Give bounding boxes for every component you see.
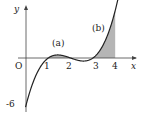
cubic-graph: y x O 1 2 3 4 -6 (a) (b) — [0, 0, 142, 120]
region-a-label: (a) — [52, 38, 64, 48]
region-b-label: (b) — [92, 23, 105, 33]
y-tick-neg6: -6 — [6, 99, 15, 109]
y-axis-label: y — [13, 4, 20, 14]
x-tick-1: 1 — [44, 61, 50, 71]
x-axis-arrow-icon — [132, 56, 137, 60]
x-tick-3: 3 — [93, 61, 99, 71]
shaded-region-b — [93, 11, 115, 58]
y-axis-arrow-icon — [24, 5, 28, 10]
x-tick-2: 2 — [66, 61, 72, 71]
x-axis-label: x — [131, 61, 136, 71]
origin-label: O — [15, 61, 22, 71]
x-tick-4: 4 — [112, 61, 118, 71]
